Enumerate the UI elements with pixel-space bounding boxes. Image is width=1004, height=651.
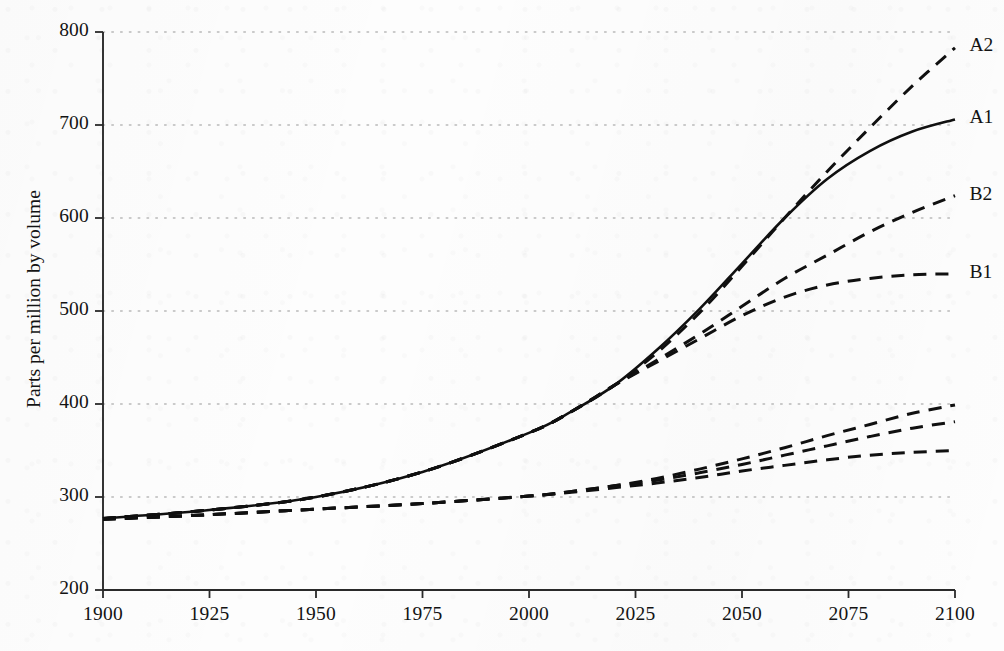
plot-area	[0, 0, 1004, 651]
x-tick-label-1975: 1975	[373, 603, 473, 625]
series-line-B2	[103, 196, 955, 519]
series-label-A1: A1	[970, 106, 994, 128]
series-label-B2: B2	[970, 183, 993, 205]
axis-lines	[103, 32, 955, 590]
x-tick-label-2000: 2000	[479, 603, 579, 625]
x-tick-label-2050: 2050	[692, 603, 792, 625]
x-tick-label-2025: 2025	[586, 603, 686, 625]
series-line-A2	[103, 48, 955, 519]
x-tick-label-1950: 1950	[266, 603, 366, 625]
x-tick-label-1900: 1900	[53, 603, 153, 625]
chart-figure: 200300400500600700800 190019251950197520…	[0, 0, 1004, 651]
x-tick-label-1925: 1925	[160, 603, 260, 625]
y-tick-label-200: 200	[18, 577, 89, 599]
x-tick-label-2075: 2075	[799, 603, 899, 625]
data-series-group	[103, 48, 955, 520]
y-axis-title: Parts per million by volume	[23, 169, 45, 429]
series-line-lower-high	[103, 405, 955, 519]
series-label-B1: B1	[970, 261, 993, 283]
x-tick-label-2100: 2100	[905, 603, 1004, 625]
series-line-B1	[103, 274, 955, 519]
series-label-A2: A2	[970, 34, 994, 56]
y-tick-label-800: 800	[18, 19, 89, 41]
y-tick-label-700: 700	[18, 112, 89, 134]
y-tick-label-300: 300	[18, 484, 89, 506]
gridlines	[103, 32, 955, 497]
